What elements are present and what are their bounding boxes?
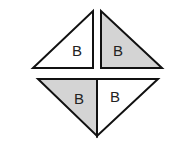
triangle-shape <box>101 11 162 68</box>
triangle-shape <box>38 79 97 136</box>
triangle-shape <box>97 79 158 136</box>
triangle-top-right: B <box>101 11 162 68</box>
triangle-bottom-left: B <box>38 79 97 136</box>
triangle-label: B <box>72 42 82 59</box>
triangle-label: B <box>110 88 120 105</box>
triangle-bottom-right: B <box>97 79 158 136</box>
triangle-label: B <box>113 42 123 59</box>
triangle-top-left: B <box>33 11 93 68</box>
triangle-diagram: B B B B <box>0 0 169 149</box>
triangle-label: B <box>74 90 84 107</box>
triangle-shape <box>33 11 93 68</box>
